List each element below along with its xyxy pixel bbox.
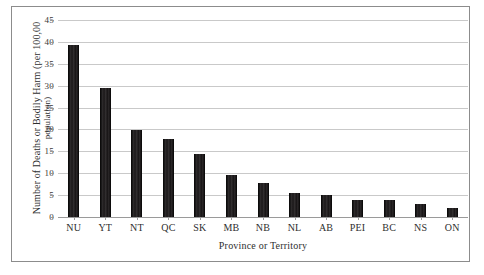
x-axis-tick-mark [137,217,138,220]
x-axis-tick-mark [389,217,390,220]
bar [131,130,142,217]
gridline [58,173,468,174]
chart-figure: 051015202530354045 NUYTNTQCSKMBNBNLABPEI… [0,0,484,275]
x-axis-tick-mark [452,217,453,220]
bar [415,204,426,217]
bar [163,139,174,217]
gridline [58,151,468,152]
bar [321,195,332,217]
x-axis-tick-label: ON [432,222,472,234]
bar [384,200,395,217]
x-axis-title: Province or Territory [58,240,468,251]
x-axis-tick-mark [263,217,264,220]
bar [258,183,269,217]
bar [289,193,300,218]
bar [226,175,237,217]
x-axis-tick-mark [421,217,422,220]
bar [352,200,363,218]
x-axis-tick-mark [231,217,232,220]
x-axis-tick-group: NUYTNTQCSKMBNBNLABPEIBCNSON [58,222,468,238]
gridline [58,42,468,43]
gridline [58,108,468,109]
gridline [58,20,468,21]
x-axis-tick-mark [200,217,201,220]
x-axis-tick-mark [105,217,106,220]
y-axis-title-line-1: Number of Deaths or Bodily Harm (per 100… [31,22,42,215]
bar [194,154,205,217]
x-axis-tick-mark [358,217,359,220]
x-axis-tick-mark [326,217,327,220]
gridline [58,86,468,87]
gridline [58,64,468,65]
bar [100,88,111,217]
bar [447,208,458,217]
y-axis-title-line-2: population) [42,3,53,233]
bar [68,45,79,217]
plot-area [58,20,468,217]
x-axis-tick-mark [295,217,296,220]
gridline [58,129,468,130]
x-axis-tick-mark [168,217,169,220]
x-axis-tick-mark [74,217,75,220]
y-axis-title: Number of Deaths or Bodily Harm (per 100… [31,3,53,233]
